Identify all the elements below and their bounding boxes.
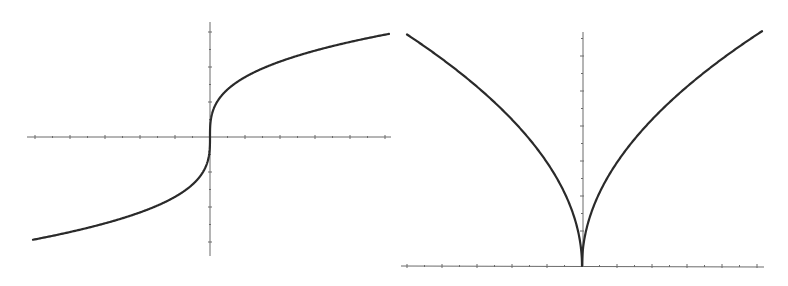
plot-cube-root: [27, 22, 391, 256]
plot-sqrt-abs: [401, 31, 764, 268]
figure-canvas: [0, 0, 788, 286]
sqrt-abs-curve: [407, 31, 762, 266]
